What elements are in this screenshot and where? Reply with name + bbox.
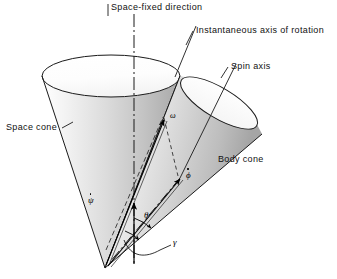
psi-dot-vector-label: ψ (88, 196, 94, 205)
phi-dot-vector-label: ϕ (186, 171, 191, 180)
spin-axis-label: Spin axis (231, 62, 271, 71)
cone-diagram-svg (0, 0, 337, 279)
theta-angle-label: θ (144, 211, 148, 220)
gamma-angle-label: γ (173, 238, 177, 247)
instantaneous-axis-leader (175, 26, 196, 77)
space-fixed-direction-label: Space-fixed direction (111, 3, 202, 12)
gamma-leader-tail (160, 245, 171, 250)
space-cone-rim-ellipse (42, 55, 180, 97)
phi-dot-glyph: ϕ (186, 171, 191, 180)
spin-axis-label-tick (221, 67, 228, 78)
instantaneous-axis-label: Instantaneous axis of rotation (196, 26, 324, 35)
space-cone-label: Space cone (6, 123, 57, 132)
body-cone-label: Body cone (218, 155, 264, 164)
omega-vector-label: ω (170, 112, 176, 120)
figure-canvas: Space-fixed direction Instantaneous axis… (0, 0, 337, 279)
psi-dot-glyph: ψ (88, 196, 94, 205)
instantaneous-axis-line (175, 26, 196, 77)
